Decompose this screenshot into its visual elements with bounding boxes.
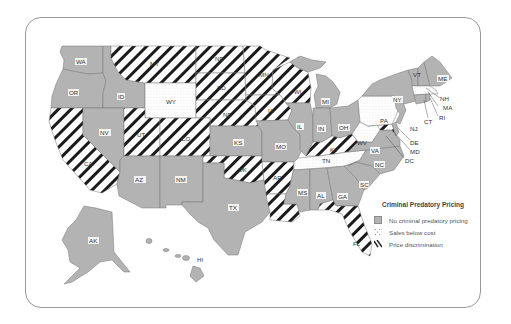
svg-text:OR: OR [69, 89, 79, 96]
legend-label-below-cost: Sales below cost [389, 229, 435, 236]
svg-text:AK: AK [89, 237, 98, 244]
state-AK [62, 206, 130, 284]
svg-text:NJ: NJ [410, 125, 418, 132]
svg-text:NM: NM [176, 176, 186, 183]
svg-text:WY: WY [166, 98, 176, 105]
dots-swatch-icon [374, 228, 382, 236]
svg-text:WV: WV [357, 139, 368, 146]
state-CT [414, 94, 426, 104]
svg-text:FL: FL [353, 240, 361, 247]
legend-item-below-cost: Sales below cost [374, 226, 494, 238]
svg-text:NV: NV [100, 129, 109, 136]
svg-text:SC: SC [360, 181, 369, 188]
svg-text:NE: NE [223, 111, 232, 118]
state-RI [426, 94, 430, 102]
legend-title: Criminal Predatory Pricing [382, 201, 494, 208]
svg-text:CT: CT [424, 118, 432, 125]
svg-text:ND: ND [215, 55, 224, 62]
svg-text:ID: ID [118, 93, 125, 100]
svg-text:PA: PA [380, 117, 389, 124]
svg-text:AZ: AZ [135, 176, 143, 183]
svg-text:AL: AL [317, 192, 325, 199]
svg-text:TN: TN [322, 157, 330, 164]
svg-text:GA: GA [338, 193, 348, 200]
svg-text:MI: MI [322, 98, 329, 105]
state-OR [51, 69, 106, 108]
svg-text:AR: AR [273, 174, 282, 181]
svg-text:WI: WI [294, 88, 302, 95]
legend-item-discrimination: Price discrimination [374, 238, 494, 250]
svg-text:DC: DC [405, 157, 414, 164]
svg-text:NY: NY [393, 96, 402, 103]
svg-text:MN: MN [259, 71, 269, 78]
svg-text:NC: NC [375, 161, 384, 168]
svg-text:UT: UT [137, 131, 145, 138]
svg-text:MD: MD [410, 148, 420, 155]
svg-text:IA: IA [268, 107, 275, 114]
svg-text:HI: HI [197, 256, 203, 263]
svg-text:ME: ME [438, 75, 447, 82]
svg-text:OH: OH [339, 124, 348, 131]
legend-item-none: No criminal predatory pricing [374, 214, 494, 226]
svg-text:RI: RI [439, 114, 445, 121]
svg-text:MS: MS [298, 189, 307, 196]
svg-text:KS: KS [234, 139, 242, 146]
svg-text:VT: VT [413, 71, 421, 78]
svg-text:WA: WA [76, 58, 87, 65]
svg-text:IN: IN [318, 125, 324, 132]
svg-text:DE: DE [410, 139, 419, 146]
legend-label-none: No criminal predatory pricing [389, 217, 468, 224]
svg-text:IL: IL [297, 123, 303, 130]
svg-text:OK: OK [238, 166, 248, 173]
svg-text:MT: MT [150, 60, 159, 67]
gray-swatch-icon [374, 216, 382, 224]
map-legend: Criminal Predatory Pricing No criminal p… [374, 201, 494, 250]
svg-text:CO: CO [181, 135, 190, 142]
svg-text:TX: TX [229, 204, 237, 211]
us-states-map: WA OR ID MT WY ND SD NE MN WI IA CA NV U… [0, 0, 511, 324]
legend-label-discrimination: Price discrimination [389, 241, 443, 248]
svg-text:MA: MA [443, 104, 453, 111]
svg-text:CA: CA [84, 160, 93, 167]
svg-text:MO: MO [276, 143, 286, 150]
state-FL [318, 200, 372, 256]
stripes-swatch-icon [374, 240, 382, 248]
state-HI [146, 239, 204, 283]
svg-text:SD: SD [217, 84, 226, 91]
svg-text:VA: VA [371, 147, 380, 154]
svg-text:KY: KY [330, 146, 338, 153]
svg-text:NH: NH [440, 95, 449, 102]
